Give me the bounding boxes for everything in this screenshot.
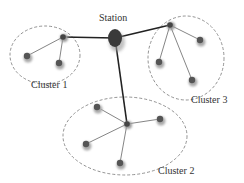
station-node: [108, 29, 125, 52]
cluster-3-label: Cluster 3: [191, 94, 227, 105]
cluster-2-label: Cluster 2: [158, 165, 194, 176]
cluster-1-boundary: [10, 26, 80, 84]
network-diagram: [0, 0, 244, 183]
cluster-1-links: [27, 37, 63, 63]
member-nodes: [24, 37, 206, 170]
station-label: Station: [99, 12, 127, 23]
cluster-3-links: [159, 25, 200, 80]
cluster-3-boundary: [148, 16, 224, 100]
cluster-2-links: [86, 107, 160, 163]
cluster-1-label: Cluster 1: [31, 79, 67, 90]
